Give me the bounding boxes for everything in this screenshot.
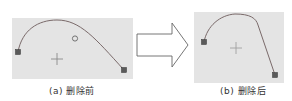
caption-panel-b: (b) 删除后 bbox=[220, 84, 266, 97]
end-anchor-point bbox=[122, 68, 127, 73]
start-anchor-point bbox=[202, 40, 207, 45]
panel-b-background bbox=[194, 12, 284, 83]
right-arrow-icon bbox=[137, 23, 188, 67]
panel-a-background bbox=[12, 18, 133, 79]
start-anchor-point bbox=[16, 50, 21, 55]
caption-panel-a: (a) 删除前 bbox=[49, 84, 95, 97]
end-anchor-point bbox=[273, 73, 278, 78]
panel-a-before-delete bbox=[12, 18, 133, 79]
panel-b-after-delete bbox=[194, 12, 284, 83]
